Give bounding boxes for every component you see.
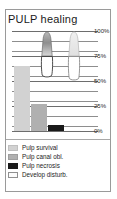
legend-item-pulp-canal-obl: Pulp canal obl.	[8, 152, 108, 161]
tooth-diagram-outline-icon	[64, 31, 84, 83]
legend-label-pulp-necrosis: Pulp necrosis	[22, 161, 60, 170]
bar-develop-disturb	[65, 130, 81, 131]
legend-item-pulp-necrosis: Pulp necrosis	[8, 161, 108, 170]
bar-pulp-survival	[14, 66, 30, 131]
pulp-healing-figure: PULP healing	[0, 0, 117, 199]
legend-item-pulp-survival: Pulp survival	[8, 143, 108, 152]
legend-swatch-pulp-necrosis	[8, 163, 18, 169]
legend-swatch-pulp-survival	[8, 145, 18, 151]
axis-tick-75: 75%	[94, 53, 106, 60]
legend-label-pulp-survival: Pulp survival	[22, 143, 58, 152]
legend-divider	[6, 139, 110, 140]
page-title: PULP healing	[8, 12, 94, 27]
bar-pulp-necrosis	[48, 125, 64, 131]
axis-tick-100: 100%	[94, 28, 109, 35]
legend-label-pulp-canal-obl: Pulp canal obl.	[22, 152, 63, 161]
chart-title-box: PULP healing	[8, 12, 94, 27]
legend-swatch-pulp-canal-obl	[8, 154, 18, 160]
axis-tick-25: 25%	[94, 103, 106, 110]
plot-area: 100% 75% 50% 25% 0%	[6, 29, 110, 135]
chart-legend: Pulp survival Pulp canal obl. Pulp necro…	[8, 143, 108, 179]
axis-tick-0: 0%	[94, 128, 103, 135]
axis-tick-50: 50%	[94, 78, 106, 85]
bar-pulp-canal-obl	[31, 104, 47, 131]
tooth-diagram-shaded-icon	[37, 31, 57, 79]
legend-swatch-develop-disturb	[8, 172, 18, 178]
legend-item-develop-disturb: Develop disturb.	[8, 170, 108, 179]
legend-label-develop-disturb: Develop disturb.	[22, 170, 68, 179]
